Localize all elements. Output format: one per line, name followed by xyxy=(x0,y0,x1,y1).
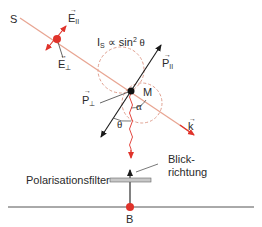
label-e-parallel: EII xyxy=(68,12,79,25)
scattering-diagram: S EII → E⊥ → IS ∝ sin2 θ M PII → P⊥ → α … xyxy=(0,0,262,227)
label-source: S xyxy=(10,13,17,25)
p-parallel-arrow xyxy=(131,45,161,91)
label-p-perp: P⊥ xyxy=(82,94,95,107)
label-observer: B xyxy=(126,213,133,225)
label-p-parallel: PII xyxy=(162,57,173,70)
p-parallel-arrow-down xyxy=(101,91,131,137)
vector-arrow-p-parallel: → xyxy=(164,51,171,58)
label-alpha: α xyxy=(136,100,142,112)
e-parallel-arrow-down xyxy=(46,40,54,50)
label-theta: θ xyxy=(117,118,122,130)
molecule-dot xyxy=(128,88,135,95)
scattered-wave xyxy=(130,93,133,155)
vector-arrow-e-parallel: → xyxy=(70,6,77,13)
label-e-perp: E⊥ xyxy=(58,58,71,71)
dipole-lobe-right xyxy=(122,83,162,123)
label-view-direction-1: Blick- xyxy=(168,153,195,165)
observer-dot xyxy=(126,203,134,211)
label-polarizer: Polarisationsfilter xyxy=(26,174,110,186)
source-dot xyxy=(53,35,61,43)
vector-arrow-k: → xyxy=(189,115,196,122)
view-direction-leader xyxy=(136,164,158,172)
label-intensity-formula: IS ∝ sin2 θ xyxy=(97,36,145,49)
e-parallel-arrow-up xyxy=(58,26,66,36)
label-molecule: M xyxy=(143,86,152,98)
vector-arrow-e-perp: → xyxy=(60,52,67,59)
polarization-filter xyxy=(110,178,151,182)
label-view-direction-2: richtung xyxy=(168,166,207,178)
vector-arrow-p-perp: → xyxy=(84,87,91,94)
